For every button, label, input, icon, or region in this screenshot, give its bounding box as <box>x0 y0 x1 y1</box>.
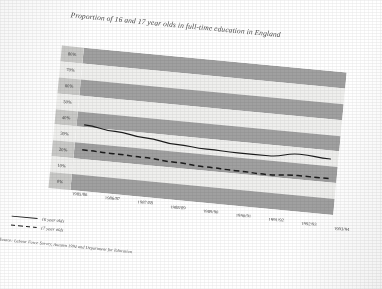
x-axis-tick-label: 1991/92 <box>268 217 284 223</box>
legend-swatch-dashed-line-icon <box>11 222 37 230</box>
series-line-16-year-olds <box>83 125 331 162</box>
x-axis-tick-label: 1986/87 <box>105 196 121 202</box>
x-axis-tick-label: 1985/86 <box>72 191 88 197</box>
legend-label-17-year-olds: 17 year olds <box>40 225 63 232</box>
x-axis-tick-label: 1988/89 <box>170 204 186 210</box>
x-axis-tick-label: 1993/94 <box>334 226 350 232</box>
chart-figure: Proportion of 16 and 17 year olds in ful… <box>0 0 382 289</box>
x-axis-tick-label: 1992/93 <box>301 221 317 227</box>
legend-label-16-year-olds: 16 year olds <box>41 216 64 223</box>
x-axis-tick-label: 1989/90 <box>203 208 219 214</box>
x-axis-tick-label: 1987/88 <box>137 200 153 206</box>
series-lines <box>70 48 346 215</box>
y-axis-tick-label: 0% <box>48 172 71 190</box>
x-axis-tick-label: 1990/91 <box>236 213 252 219</box>
plot-area <box>70 48 346 215</box>
